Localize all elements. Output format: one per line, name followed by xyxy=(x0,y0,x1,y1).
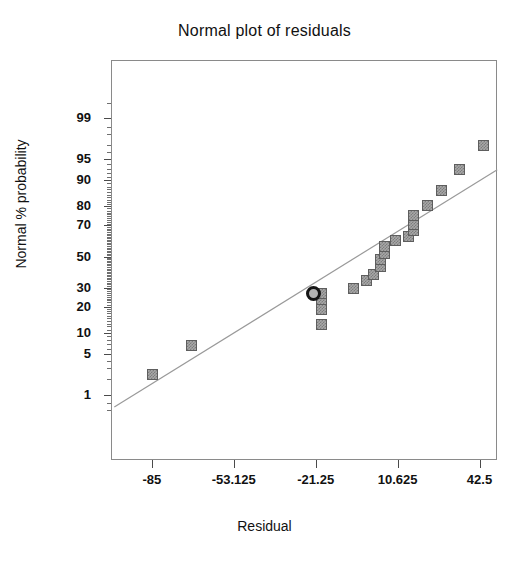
y-axis-minor-tick xyxy=(107,238,111,239)
y-axis-minor-tick xyxy=(107,302,111,303)
y-axis-minor-tick xyxy=(107,222,111,223)
y-axis-tick-label: 20 xyxy=(55,300,91,313)
x-axis-tick xyxy=(234,460,235,468)
y-axis-minor-tick xyxy=(107,368,111,369)
plot-area xyxy=(111,60,497,460)
y-axis-minor-tick xyxy=(107,270,111,271)
x-axis-tick xyxy=(480,460,481,468)
y-axis-minor-tick xyxy=(107,278,111,279)
y-axis-minor-tick xyxy=(107,326,111,327)
y-axis-minor-tick xyxy=(107,403,111,404)
data-point-marker[interactable] xyxy=(316,319,327,330)
y-axis-minor-tick xyxy=(107,202,111,203)
y-axis-minor-tick xyxy=(107,235,111,236)
y-axis-minor-tick xyxy=(107,261,111,262)
chart-title: Normal plot of residuals xyxy=(0,22,529,40)
y-axis-minor-tick xyxy=(107,173,111,174)
data-point-marker[interactable] xyxy=(147,369,158,380)
x-axis-tick-label: 42.5 xyxy=(430,473,529,487)
y-axis-minor-tick xyxy=(107,295,111,296)
y-axis-tick xyxy=(104,206,111,207)
y-axis-minor-tick xyxy=(107,189,111,190)
y-axis-minor-tick xyxy=(107,218,111,219)
data-point-marker[interactable] xyxy=(390,235,401,246)
y-axis-minor-tick xyxy=(107,134,111,135)
y-axis-minor-tick xyxy=(107,379,111,380)
y-axis-tick xyxy=(104,307,111,308)
y-axis-minor-tick xyxy=(107,240,111,241)
y-axis-minor-tick xyxy=(107,299,111,300)
y-axis-tick-label: 50 xyxy=(55,250,91,263)
y-axis-minor-tick xyxy=(107,293,111,294)
y-axis-minor-tick xyxy=(107,177,111,178)
y-axis-minor-tick xyxy=(107,244,111,245)
y-axis-minor-tick xyxy=(107,214,111,215)
y-axis-minor-tick xyxy=(107,216,111,217)
y-axis-minor-tick xyxy=(107,258,111,259)
y-axis-minor-tick xyxy=(107,145,111,146)
y-axis-minor-tick xyxy=(107,291,111,292)
y-axis-minor-tick xyxy=(107,259,111,260)
y-axis-tick-label: 30 xyxy=(55,281,91,294)
y-axis-minor-tick xyxy=(107,220,111,221)
y-axis-tick xyxy=(104,118,111,119)
data-point-marker[interactable] xyxy=(478,140,489,151)
y-axis-minor-tick xyxy=(107,169,111,170)
y-axis-minor-tick xyxy=(107,127,111,128)
y-axis-minor-tick xyxy=(107,305,111,306)
y-axis-minor-tick xyxy=(107,410,111,411)
y-axis-tick xyxy=(104,354,111,355)
normal-reference-line xyxy=(114,170,497,407)
y-axis-minor-tick xyxy=(107,283,111,284)
y-axis-minor-tick xyxy=(107,251,111,252)
y-axis-minor-tick xyxy=(107,232,111,233)
y-axis-minor-tick xyxy=(107,254,111,255)
y-axis-minor-tick xyxy=(107,237,111,238)
y-axis-minor-tick xyxy=(107,309,111,310)
y-axis-minor-tick xyxy=(107,241,111,242)
y-axis-minor-tick xyxy=(107,255,111,256)
data-point-marker[interactable] xyxy=(436,185,447,196)
y-axis-minor-tick xyxy=(107,286,111,287)
data-point-marker[interactable] xyxy=(422,200,433,211)
y-axis-minor-tick xyxy=(107,200,111,201)
y-axis-minor-tick xyxy=(107,227,111,228)
y-axis-tick-label: 80 xyxy=(55,199,91,212)
plot-svg xyxy=(112,61,498,461)
y-axis-minor-tick xyxy=(107,252,111,253)
y-axis-minor-tick xyxy=(107,316,111,317)
y-axis-tick xyxy=(104,333,111,334)
y-axis-minor-tick xyxy=(107,269,111,270)
y-axis-minor-tick xyxy=(107,311,111,312)
y-axis-minor-tick xyxy=(107,262,111,263)
y-axis-minor-tick xyxy=(107,248,111,249)
y-axis-tick-label: 10 xyxy=(55,326,91,339)
y-axis-minor-tick xyxy=(107,243,111,244)
data-point-marker[interactable] xyxy=(316,304,327,315)
data-point-marker[interactable] xyxy=(186,340,197,351)
y-axis-minor-tick xyxy=(107,361,111,362)
y-axis-tick-label: 1 xyxy=(55,388,91,401)
y-axis-minor-tick xyxy=(107,152,111,153)
x-axis-title: Residual xyxy=(0,518,529,534)
data-point-marker[interactable] xyxy=(454,164,465,175)
y-axis-tick-label: 5 xyxy=(55,347,91,360)
y-axis-tick xyxy=(104,395,111,396)
y-axis-tick-label: 90 xyxy=(55,173,91,186)
y-axis-minor-tick xyxy=(107,246,111,247)
y-axis-minor-tick xyxy=(107,313,111,314)
y-axis-tick xyxy=(104,180,111,181)
y-axis-minor-tick xyxy=(107,318,111,319)
y-axis-minor-tick xyxy=(107,273,111,274)
data-point-marker[interactable] xyxy=(348,283,359,294)
y-axis-title: Normal % probability xyxy=(13,104,29,304)
y-axis-minor-tick xyxy=(107,249,111,250)
data-point-marker[interactable] xyxy=(379,241,390,252)
y-axis-minor-tick xyxy=(107,211,111,212)
y-axis-minor-tick xyxy=(107,265,111,266)
y-axis-minor-tick xyxy=(107,340,111,341)
y-axis-minor-tick xyxy=(107,103,111,104)
x-axis-tick xyxy=(316,460,317,468)
data-point-marker[interactable] xyxy=(408,210,419,221)
y-axis-minor-tick xyxy=(107,213,111,214)
